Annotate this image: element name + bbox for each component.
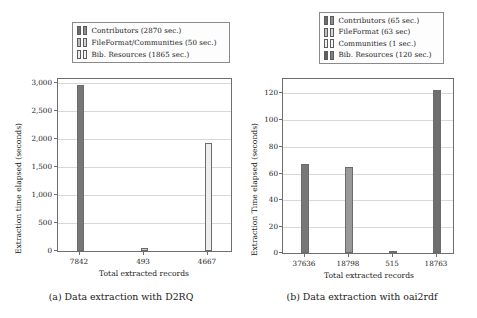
legend-item: FileFormat/Communities (50 sec.): [77, 38, 223, 47]
legend-item: Bib. Resources (120 sec.): [324, 51, 437, 60]
legend-swatch-pair: [324, 39, 334, 48]
y-tick-mark: [54, 194, 57, 195]
figure-container: Contributors (2870 sec.) FileFormat/Comm…: [0, 0, 477, 318]
y-tick-mark: [54, 110, 57, 111]
x-tick-mark: [392, 254, 393, 257]
legend-item: Bib. Resources (1865 sec.): [77, 50, 223, 59]
y-tick-mark: [279, 252, 282, 253]
y-tick-label: 3,000: [22, 78, 52, 87]
x-tick-label: 18798: [337, 259, 360, 268]
y-tick-label: 40: [256, 195, 278, 204]
gridline: [58, 83, 231, 84]
legend-swatch-icon: [330, 28, 334, 37]
y-tick-label: 500: [22, 218, 52, 227]
bar-bib-resources: [205, 143, 212, 251]
y-tick-mark: [279, 119, 282, 120]
x-tick-mark: [304, 254, 305, 257]
legend-item-label: Bib. Resources (1865 sec.): [92, 51, 190, 58]
legend-swatch-icon: [324, 39, 328, 48]
x-axis-title: Total extracted records: [99, 269, 189, 278]
y-tick-mark: [54, 82, 57, 83]
y-tick-mark: [279, 173, 282, 174]
legend-swatch-icon: [83, 26, 87, 35]
x-tick-mark: [79, 252, 80, 255]
legend-d2rq: Contributors (2870 sec.) FileFormat/Comm…: [72, 22, 230, 63]
y-tick-label: 100: [256, 115, 278, 124]
y-tick-label: 2,000: [22, 134, 52, 143]
plot-area-oai2rdf: [282, 78, 454, 254]
legend-swatch-icon: [330, 16, 334, 25]
x-axis-title: Total extracted records: [324, 271, 414, 280]
y-tick-mark: [54, 138, 57, 139]
legend-item: FileFormat (63 sec): [324, 28, 437, 37]
x-tick-mark: [143, 252, 144, 255]
legend-swatch-pair: [77, 50, 87, 59]
y-tick-label: 80: [256, 142, 278, 151]
y-tick-mark: [279, 92, 282, 93]
y-tick-mark: [54, 250, 57, 251]
legend-item-label: Bib. Resources (120 sec.): [339, 51, 432, 58]
y-tick-mark: [54, 222, 57, 223]
x-tick-label: 515: [385, 259, 399, 268]
legend-item-label: FileFormat/Communities (50 sec.): [92, 39, 217, 46]
y-tick-label: 1,000: [22, 190, 52, 199]
y-tick-label: 120: [256, 88, 278, 97]
y-tick-label: 1,500: [22, 162, 52, 171]
legend-swatch-pair: [324, 28, 334, 37]
legend-swatch-icon: [324, 28, 328, 37]
legend-swatch-icon: [330, 39, 334, 48]
legend-item-label: Contributors (2870 sec.): [92, 27, 182, 34]
x-tick-mark: [348, 254, 349, 257]
legend-item: Contributors (2870 sec.): [77, 26, 223, 35]
legend-swatch-icon: [324, 16, 328, 25]
legend-swatch-icon: [324, 51, 328, 60]
gridline: [283, 120, 453, 121]
legend-oai2rdf: Contributors (65 sec.) FileFormat (63 se…: [319, 12, 444, 64]
y-tick-mark: [279, 199, 282, 200]
panel-d2rq: Contributors (2870 sec.) FileFormat/Comm…: [0, 0, 238, 318]
plot-area-d2rq: [57, 78, 232, 252]
y-tick-label: 0: [22, 246, 52, 255]
panel-caption: (b) Data extraction with oai2rdf: [286, 291, 437, 302]
legend-swatch-icon: [83, 38, 87, 47]
x-tick-label: 37636: [293, 259, 316, 268]
panel-oai2rdf: Contributors (65 sec.) FileFormat (63 se…: [238, 0, 477, 318]
y-axis-title: Extraction time elapsed (seconds): [14, 123, 23, 254]
x-tick-label: 7842: [70, 257, 88, 266]
x-tick-mark: [207, 252, 208, 255]
legend-swatch-pair: [77, 38, 87, 47]
y-tick-label: 0: [256, 248, 278, 257]
legend-item-label: Communities (1 sec.): [339, 40, 417, 47]
bar-fileformat-communities: [141, 248, 148, 251]
y-tick-mark: [54, 166, 57, 167]
legend-swatch-icon: [77, 26, 81, 35]
x-tick-label: 493: [136, 257, 150, 266]
legend-swatch-icon: [77, 50, 81, 59]
y-tick-mark: [279, 226, 282, 227]
gridline: [283, 93, 453, 94]
y-tick-label: 2,500: [22, 106, 52, 115]
y-tick-label: 20: [256, 222, 278, 231]
x-tick-label: 18763: [425, 259, 448, 268]
legend-item: Contributors (65 sec.): [324, 16, 437, 25]
bar-contributors: [77, 85, 84, 251]
legend-swatch-icon: [83, 50, 87, 59]
legend-item: Communities (1 sec.): [324, 39, 437, 48]
legend-item-label: FileFormat (63 sec): [339, 28, 411, 35]
y-tick-mark: [279, 146, 282, 147]
legend-swatch-pair: [77, 26, 87, 35]
x-tick-mark: [436, 254, 437, 257]
legend-swatch-pair: [324, 16, 334, 25]
bar-communities: [389, 251, 397, 253]
y-tick-label: 60: [256, 169, 278, 178]
panel-caption: (a) Data extraction with D2RQ: [49, 291, 194, 302]
legend-item-label: Contributors (65 sec.): [339, 17, 420, 24]
gridline: [283, 147, 453, 148]
legend-swatch-icon: [330, 51, 334, 60]
legend-swatch-pair: [324, 51, 334, 60]
legend-swatch-icon: [77, 38, 81, 47]
bar-bib-resources: [433, 90, 441, 253]
bar-contributors: [301, 164, 309, 253]
bar-fileformat: [345, 167, 353, 253]
x-tick-label: 4667: [198, 257, 216, 266]
